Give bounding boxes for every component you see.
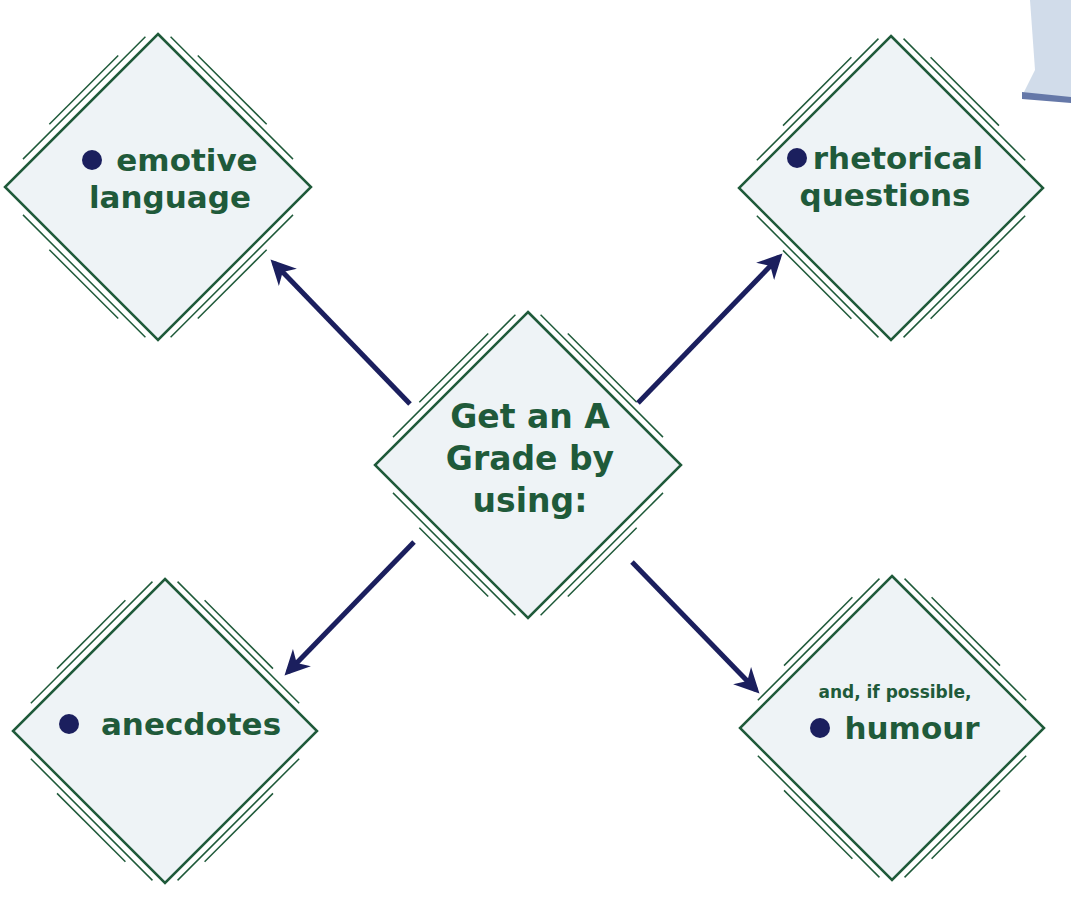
node-rhetorical-questions: rhetorical questions: [770, 140, 1000, 214]
bullet-icon: [59, 714, 79, 734]
corner-shape-decoration: [1022, 0, 1071, 103]
mind-map-diagram: emotive language rhetorical questions an…: [0, 0, 1071, 904]
node-center-title: Get an A Grade by using:: [420, 396, 640, 523]
node-anecdotes: anecdotes: [40, 706, 300, 743]
arrow-to-anecdotes: [288, 542, 414, 672]
bullet-icon: [810, 718, 830, 738]
bullet-icon: [82, 150, 102, 170]
node-humour: and, if possible, humour: [770, 682, 1020, 748]
arrow-to-emotive-language: [274, 263, 410, 404]
node-emotive-language: emotive language: [40, 142, 300, 216]
arrow-to-rhetorical-questions: [638, 257, 779, 403]
arrow-to-humour: [632, 562, 756, 690]
bullet-icon: [787, 148, 807, 168]
